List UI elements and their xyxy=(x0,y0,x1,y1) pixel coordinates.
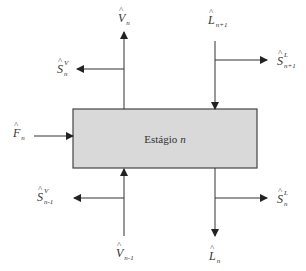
label-sl-n: ^SLn xyxy=(277,193,288,208)
label-v-out: ^Vn xyxy=(118,12,130,27)
hat-icon: ^ xyxy=(278,187,282,196)
label-sv-nm1: ^SVn-1 xyxy=(37,191,53,206)
hat-icon: ^ xyxy=(210,244,214,253)
hat-icon: ^ xyxy=(14,121,18,130)
label-sl-np1: ^SLn+1 xyxy=(277,55,296,70)
label-l-in: ^Ln+1 xyxy=(208,14,227,29)
hat-icon: ^ xyxy=(119,6,123,15)
hat-icon: ^ xyxy=(38,185,42,194)
label-v-in: ^Vn-1 xyxy=(116,247,134,262)
stage-label-index: n xyxy=(180,133,186,145)
hat-icon: ^ xyxy=(58,57,62,66)
label-f-in: ^Fn xyxy=(13,127,25,142)
label-sv-n: ^SVn xyxy=(57,63,68,78)
hat-icon: ^ xyxy=(117,241,121,250)
stage-label: Estágion xyxy=(73,109,257,168)
hat-icon: ^ xyxy=(209,8,213,17)
hat-icon: ^ xyxy=(278,49,282,58)
label-l-out: ^Ln xyxy=(209,250,220,265)
stage-label-text: Estágio xyxy=(144,133,177,145)
